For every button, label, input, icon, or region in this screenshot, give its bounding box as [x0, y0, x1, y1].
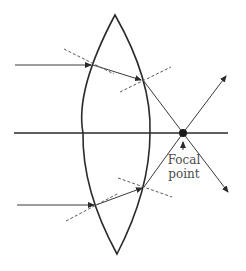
focal-point-label: Focal point	[159, 153, 209, 181]
upper-ray	[15, 65, 226, 133]
lower-normals	[66, 178, 172, 221]
focal-point-dot	[179, 129, 187, 137]
upper-normals	[64, 49, 171, 92]
lens-diagram	[0, 0, 246, 271]
focal-label-line2: point	[159, 167, 209, 181]
convex-lens	[82, 15, 150, 254]
focal-label-line1: Focal	[159, 153, 209, 167]
